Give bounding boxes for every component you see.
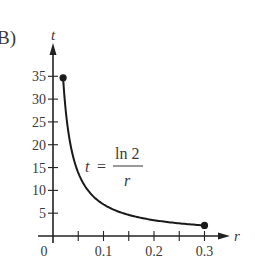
y-tick-label: 30 <box>32 92 46 107</box>
equation-denominator: r <box>124 172 131 189</box>
panel-label: B) <box>0 27 16 49</box>
y-tick-label: 20 <box>32 138 46 153</box>
x-axis: r 00.10.20.3 <box>38 228 240 259</box>
x-tick-label: 0.2 <box>145 244 163 259</box>
x-tick-label: 0 <box>41 244 48 259</box>
curve-start-point <box>60 74 67 81</box>
y-axis-label: t <box>51 27 56 43</box>
x-tick-label: 0.1 <box>95 244 113 259</box>
y-tick-label: 15 <box>32 161 46 176</box>
y-axis-arrow-icon <box>50 43 57 55</box>
x-axis-label: r <box>234 228 240 244</box>
y-tick-label: 10 <box>32 183 46 198</box>
x-axis-arrow-icon <box>218 233 230 240</box>
equation-lhs: t <box>85 158 90 175</box>
equation-numerator: ln 2 <box>115 145 139 162</box>
curve-end-point <box>201 222 208 229</box>
y-ticks: 5101520253035 <box>32 69 58 221</box>
equation-annotation: t = ln 2 r <box>85 145 143 189</box>
y-tick-label: 25 <box>32 115 46 130</box>
y-tick-label: 35 <box>32 69 46 84</box>
equation-equals: = <box>97 158 106 175</box>
y-axis: t 5101520253035 <box>32 27 58 243</box>
y-tick-label: 5 <box>39 206 46 221</box>
x-tick-label: 0.3 <box>196 244 214 259</box>
chart: B) t 5101520253035 r 00.10.20.3 t = ln 2… <box>0 0 255 278</box>
